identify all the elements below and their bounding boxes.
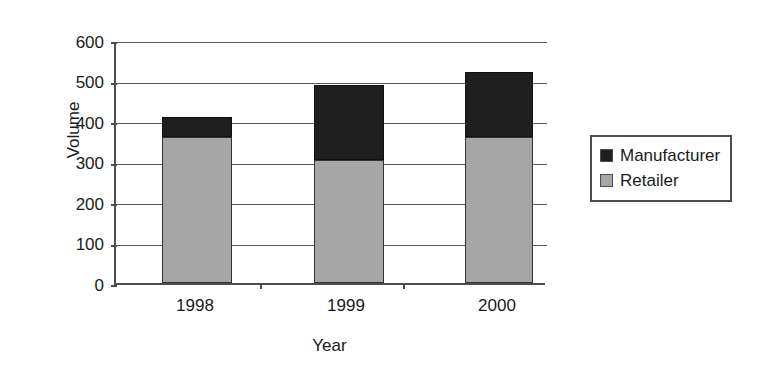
x-tick-label-2000: 2000 — [452, 296, 542, 316]
y-tick-label-0: 0 — [52, 277, 104, 294]
y-tickmark-300 — [111, 164, 117, 166]
bar-segment-retailer-2000[interactable] — [465, 137, 533, 283]
y-axis-tick-labels: 600 500 400 300 200 100 0 — [48, 0, 104, 392]
bar-group-1999[interactable] — [314, 85, 384, 283]
stacked-bar-chart: Volume 600 500 400 300 200 100 0 — [0, 0, 780, 392]
y-tick-label-500: 500 — [52, 74, 104, 91]
y-tick-label-600: 600 — [52, 34, 104, 51]
legend-swatch-retailer-icon — [600, 174, 613, 187]
bar-group-1998[interactable] — [162, 117, 232, 283]
bar-segment-manufacturer-2000[interactable] — [465, 72, 533, 137]
x-tick-label-1998: 1998 — [150, 296, 240, 316]
legend: Manufacturer Retailer — [590, 135, 732, 202]
legend-item-manufacturer[interactable]: Manufacturer — [600, 143, 720, 168]
y-tickmark-600 — [111, 42, 117, 44]
y-tickmark-400 — [111, 123, 117, 125]
legend-label-retailer: Retailer — [620, 171, 679, 191]
bar-segment-manufacturer-1999[interactable] — [314, 85, 384, 160]
y-tickmark-100 — [111, 245, 117, 247]
legend-label-manufacturer: Manufacturer — [620, 146, 720, 166]
bar-group-2000[interactable] — [465, 72, 533, 283]
y-tick-label-200: 200 — [52, 196, 104, 213]
y-tick-label-400: 400 — [52, 115, 104, 132]
legend-swatch-manufacturer-icon — [600, 149, 613, 162]
y-tick-label-300: 300 — [52, 155, 104, 172]
y-tickmark-200 — [111, 204, 117, 206]
x-tickmark-1 — [260, 283, 262, 289]
plot-area — [114, 42, 545, 285]
gridline-600 — [116, 42, 547, 43]
bar-segment-retailer-1998[interactable] — [162, 137, 232, 283]
bar-segment-retailer-1999[interactable] — [314, 160, 384, 284]
y-tickmark-500 — [111, 83, 117, 85]
bar-segment-manufacturer-1998[interactable] — [162, 117, 232, 137]
x-tickmark-2 — [403, 283, 405, 289]
x-tick-label-1999: 1999 — [301, 296, 391, 316]
y-tickmark-0 — [111, 285, 117, 287]
x-axis-title: Year — [114, 336, 545, 356]
y-tick-label-100: 100 — [52, 236, 104, 253]
legend-item-retailer[interactable]: Retailer — [600, 168, 720, 193]
